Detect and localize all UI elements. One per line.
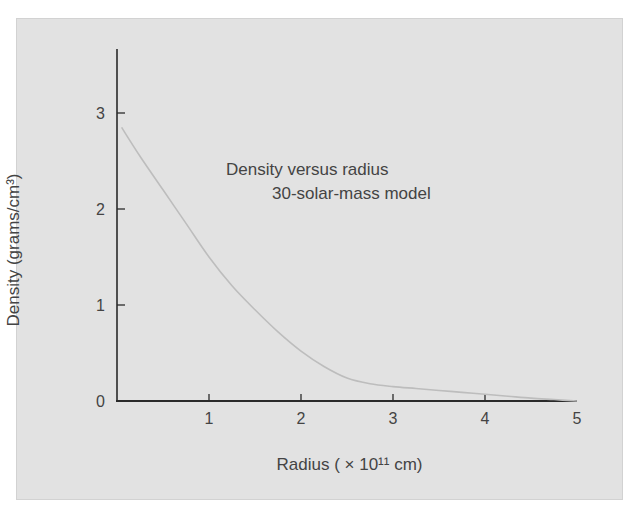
y-tick-label: 2 [96,201,105,218]
y-tick-label: 1 [96,297,105,314]
y-tick-label: 3 [96,105,105,122]
ticks: 012312345 [96,105,581,427]
y-tick-label: 0 [96,393,105,410]
x-axis-label: Radius ( × 10¹¹ cm) [0,455,639,475]
x-tick-label: 5 [573,410,582,427]
x-tick-label: 3 [389,410,398,427]
y-axis-label: Density (grams/cm³) [4,173,24,326]
x-tick-label: 4 [481,410,490,427]
axes [116,49,577,402]
plot-area: 012312345 [0,0,639,517]
chart-subtitle: 30-solar-mass model [272,184,431,204]
x-tick-label: 1 [205,410,214,427]
chart-title: Density versus radius [226,160,389,180]
x-tick-label: 2 [297,410,306,427]
